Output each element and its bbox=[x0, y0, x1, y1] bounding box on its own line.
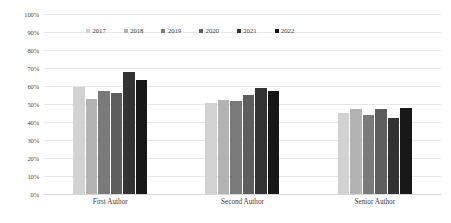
legend-swatch-icon bbox=[199, 29, 203, 33]
bar-2017-second-author bbox=[205, 103, 217, 194]
y-axis-tick-label: 50% bbox=[5, 101, 39, 108]
legend-label: 2017 bbox=[93, 27, 106, 34]
bar-2021-first-author bbox=[123, 72, 135, 194]
legend-swatch-icon bbox=[161, 29, 165, 33]
x-axis-category-labels: First AuthorSecond AuthorSenior Author bbox=[44, 198, 441, 206]
y-axis-tick-label: 20% bbox=[5, 155, 39, 162]
legend-swatch-icon bbox=[275, 29, 279, 33]
y-axis-tick-label: 70% bbox=[5, 65, 39, 72]
legend-label: 2019 bbox=[168, 27, 181, 34]
bar-2022-first-author bbox=[136, 80, 148, 194]
y-axis-tick-label: 0% bbox=[5, 191, 39, 198]
bar-2022-senior-author bbox=[400, 108, 412, 194]
bar-2017-senior-author bbox=[338, 113, 350, 194]
y-axis-tick-label: 10% bbox=[5, 173, 39, 180]
bar-2020-senior-author bbox=[375, 109, 387, 195]
y-axis-tick-label: 40% bbox=[5, 119, 39, 126]
legend-swatch-icon bbox=[86, 29, 90, 33]
bar-group bbox=[176, 14, 308, 194]
bar-2017-first-author bbox=[73, 87, 85, 194]
legend-item-2022[interactable]: 2022 bbox=[275, 27, 295, 34]
bar-groups bbox=[44, 14, 441, 194]
legend-swatch-icon bbox=[237, 29, 241, 33]
legend-swatch-icon bbox=[124, 29, 128, 33]
bar-2019-first-author bbox=[98, 91, 110, 195]
legend-label: 2020 bbox=[206, 27, 219, 34]
bar-2022-second-author bbox=[268, 91, 280, 195]
legend-item-2020[interactable]: 2020 bbox=[199, 27, 219, 34]
legend-label: 2018 bbox=[130, 27, 143, 34]
chart-legend: 201720182019202020212022 bbox=[86, 27, 312, 34]
bar-group bbox=[44, 14, 176, 194]
x-axis-label-senior-author: Senior Author bbox=[309, 198, 441, 206]
bar-2020-first-author bbox=[111, 93, 123, 194]
legend-item-2019[interactable]: 2019 bbox=[161, 27, 181, 34]
y-axis-tick-label: 30% bbox=[5, 137, 39, 144]
legend-item-2018[interactable]: 2018 bbox=[124, 27, 144, 34]
bar-2019-senior-author bbox=[363, 115, 375, 194]
bar-2021-second-author bbox=[255, 88, 267, 194]
x-axis-label-second-author: Second Author bbox=[176, 198, 308, 206]
legend-label: 2021 bbox=[243, 27, 256, 34]
legend-label: 2022 bbox=[281, 27, 294, 34]
bar-2019-second-author bbox=[230, 101, 242, 194]
y-axis-tick-label: 100% bbox=[5, 11, 39, 18]
bar-chart: First AuthorSecond AuthorSenior Author 2… bbox=[0, 0, 451, 223]
y-axis-tick-label: 90% bbox=[5, 29, 39, 36]
bar-2021-senior-author bbox=[388, 118, 400, 195]
bar-2020-second-author bbox=[243, 95, 255, 194]
legend-item-2017[interactable]: 2017 bbox=[86, 27, 106, 34]
gridline bbox=[44, 194, 441, 195]
bar-2018-second-author bbox=[218, 100, 230, 194]
y-axis-tick-label: 80% bbox=[5, 47, 39, 54]
bar-2018-senior-author bbox=[350, 109, 362, 195]
x-axis-label-first-author: First Author bbox=[44, 198, 176, 206]
legend-item-2021[interactable]: 2021 bbox=[237, 27, 257, 34]
bar-group bbox=[309, 14, 441, 194]
y-axis-tick-label: 60% bbox=[5, 83, 39, 90]
bar-2018-first-author bbox=[86, 99, 98, 194]
